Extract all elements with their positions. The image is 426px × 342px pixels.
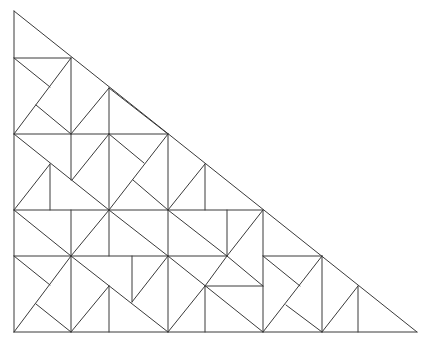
line-segment <box>109 88 168 134</box>
line-segment <box>227 256 263 286</box>
line-segment <box>133 180 168 210</box>
line-segment <box>168 210 227 256</box>
line-segment <box>71 286 109 332</box>
line-segment <box>109 210 168 256</box>
line-segment <box>205 256 227 286</box>
line-segment <box>14 256 50 285</box>
line-segment <box>168 286 205 332</box>
line-segment <box>14 256 71 332</box>
line-segment <box>14 58 71 134</box>
line-segment <box>109 134 168 210</box>
line-segment <box>14 134 109 210</box>
line-segment <box>72 134 109 180</box>
line-segment <box>71 256 168 332</box>
line-segment <box>36 304 71 332</box>
line-segment <box>14 164 50 210</box>
line-segment <box>263 256 300 286</box>
line-segment <box>227 210 263 256</box>
line-segment <box>168 164 205 210</box>
line-segment <box>36 105 71 134</box>
line-segment <box>109 134 144 163</box>
line-segment <box>263 256 322 332</box>
line-segment <box>14 11 417 332</box>
line-segment <box>14 58 50 87</box>
line-segment <box>71 210 109 256</box>
line-segment <box>322 286 358 332</box>
line-segment <box>168 256 263 332</box>
line-segment <box>71 88 109 134</box>
triangle-dissection-diagram <box>0 0 426 342</box>
line-segments <box>14 11 417 332</box>
line-segment <box>132 256 168 302</box>
line-segment <box>14 210 71 256</box>
line-segment <box>286 305 322 332</box>
